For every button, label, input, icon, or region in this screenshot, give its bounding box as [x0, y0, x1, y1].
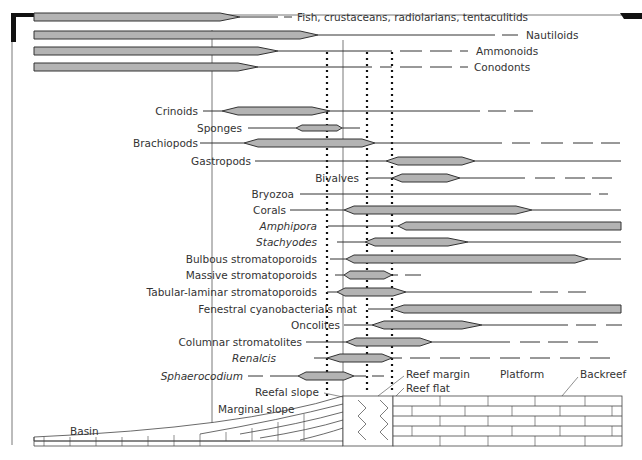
- svg-text:Reef margin: Reef margin: [406, 368, 470, 380]
- svg-text:Columnar stromatolites: Columnar stromatolites: [179, 336, 302, 348]
- svg-text:Renalcis: Renalcis: [232, 352, 276, 364]
- svg-text:Fish, crustaceans, radiolarian: Fish, crustaceans, radiolarians, tentacu…: [297, 11, 528, 23]
- svg-text:Tabular-laminar stromatoporoid: Tabular-laminar stromatoporoids: [146, 286, 317, 298]
- svg-text:Brachiopods: Brachiopods: [133, 137, 198, 149]
- svg-text:Massive stromatoporoids: Massive stromatoporoids: [186, 269, 317, 281]
- svg-text:Sphaerocodium: Sphaerocodium: [161, 370, 243, 382]
- svg-text:Backreef: Backreef: [580, 368, 626, 380]
- svg-text:Crinoids: Crinoids: [155, 105, 198, 117]
- svg-text:Platform: Platform: [500, 368, 544, 380]
- svg-text:Oncolites: Oncolites: [291, 319, 340, 331]
- svg-text:Stachyodes: Stachyodes: [256, 236, 317, 248]
- svg-text:Corals: Corals: [253, 204, 286, 216]
- svg-text:Bryozoa: Bryozoa: [251, 188, 294, 200]
- svg-text:Conodonts: Conodonts: [474, 61, 530, 73]
- svg-text:Reefal slope: Reefal slope: [255, 386, 319, 398]
- svg-text:Nautiloids: Nautiloids: [526, 29, 578, 41]
- svg-text:Amphipora: Amphipora: [259, 220, 318, 232]
- svg-text:Sponges: Sponges: [197, 122, 242, 134]
- reef-cross-section: [34, 376, 622, 446]
- reef-fossil-distribution-diagram: Fish, crustaceans, radiolarians, tentacu…: [0, 0, 642, 460]
- svg-text:Marginal slope: Marginal slope: [218, 403, 295, 415]
- svg-text:Fenestral cyanobacterials mat: Fenestral cyanobacterials mat: [198, 303, 357, 315]
- svg-text:Ammonoids: Ammonoids: [476, 45, 538, 57]
- svg-text:Gastropods: Gastropods: [191, 155, 251, 167]
- svg-text:Reef flat: Reef flat: [406, 382, 450, 394]
- svg-text:Bivalves: Bivalves: [315, 172, 359, 184]
- svg-text:Bulbous stromatoporoids: Bulbous stromatoporoids: [186, 253, 317, 265]
- svg-text:Basin: Basin: [70, 425, 99, 437]
